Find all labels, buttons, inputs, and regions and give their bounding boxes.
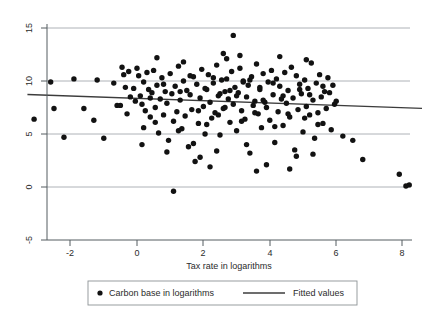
data-point xyxy=(131,86,136,91)
data-point xyxy=(154,55,159,60)
data-point xyxy=(172,84,177,89)
data-point xyxy=(280,93,285,98)
data-point xyxy=(237,53,242,58)
data-point xyxy=(297,87,302,92)
data-point xyxy=(231,33,236,38)
data-point xyxy=(143,108,148,113)
data-point xyxy=(247,150,252,155)
data-point xyxy=(177,89,182,94)
data-point xyxy=(246,83,251,88)
data-point xyxy=(360,157,365,162)
data-point xyxy=(302,77,307,82)
data-point xyxy=(234,93,239,98)
data-point xyxy=(61,134,66,139)
y-tick-label-0: 0 xyxy=(24,184,34,189)
data-point xyxy=(264,162,269,167)
data-point xyxy=(139,142,144,147)
data-point xyxy=(202,131,207,136)
data-point xyxy=(187,92,192,97)
data-point xyxy=(153,120,158,125)
data-point xyxy=(176,63,181,68)
data-point xyxy=(277,54,282,59)
data-point xyxy=(214,62,219,67)
data-point xyxy=(206,72,211,77)
data-point xyxy=(319,94,324,99)
data-point xyxy=(340,133,345,138)
axes xyxy=(47,24,412,240)
data-point xyxy=(320,84,325,89)
data-point xyxy=(310,151,315,156)
data-point xyxy=(241,79,246,84)
legend-label-line: Fitted values xyxy=(293,288,345,298)
data-point xyxy=(224,76,229,81)
data-point xyxy=(265,79,270,84)
data-point xyxy=(237,66,242,71)
data-point xyxy=(136,73,141,78)
data-point xyxy=(309,60,314,65)
data-point xyxy=(290,95,295,100)
data-point xyxy=(91,118,96,123)
data-point xyxy=(229,69,234,74)
data-point xyxy=(315,122,320,127)
data-point xyxy=(232,85,237,90)
data-point xyxy=(174,109,179,114)
x-tick-label-6: 6 xyxy=(333,248,338,258)
data-point xyxy=(101,136,106,141)
data-point xyxy=(121,72,126,77)
data-point xyxy=(181,78,186,83)
y-axis-tick-labels: 15 10 5 0 -5 xyxy=(24,23,34,244)
data-point xyxy=(171,119,176,124)
x-axis-title: Tax rate in logarithms xyxy=(186,261,272,271)
scatter-plot-figure: 15 10 5 0 -5 -2 0 2 4 6 8 Tax rate in lo… xyxy=(0,0,422,317)
data-point xyxy=(141,125,146,130)
data-point xyxy=(270,92,275,97)
data-point xyxy=(189,107,194,112)
chart-legend: Carbon base in logarithms Fitted values xyxy=(88,281,357,305)
data-point xyxy=(177,97,182,102)
data-point xyxy=(260,71,265,76)
data-point xyxy=(294,154,299,159)
x-tick-label-4: 4 xyxy=(267,248,272,258)
data-point xyxy=(222,89,227,94)
data-point xyxy=(284,101,289,106)
data-point xyxy=(305,86,310,91)
data-point xyxy=(302,115,307,120)
x-axis-tick-labels: -2 0 2 4 6 8 xyxy=(66,248,405,258)
x-axis-ticks xyxy=(70,240,402,246)
y-tick-label-minus5: -5 xyxy=(24,236,34,244)
data-point xyxy=(94,77,99,82)
data-point xyxy=(244,142,249,147)
y-axis-ticks xyxy=(41,28,47,240)
data-point xyxy=(194,81,199,86)
data-point xyxy=(254,168,259,173)
data-point xyxy=(181,59,186,64)
data-point xyxy=(148,95,153,100)
data-point xyxy=(123,85,128,90)
data-point xyxy=(254,61,259,66)
data-point xyxy=(239,119,244,124)
data-point xyxy=(176,128,181,133)
data-point xyxy=(216,112,221,117)
data-point xyxy=(164,149,169,154)
data-point xyxy=(267,118,272,123)
data-point xyxy=(159,75,164,80)
chart-canvas: 15 10 5 0 -5 -2 0 2 4 6 8 Tax rate in lo… xyxy=(0,0,422,317)
data-point xyxy=(277,84,282,89)
data-point xyxy=(207,164,212,169)
data-point xyxy=(244,94,249,99)
data-point xyxy=(247,77,252,82)
data-point xyxy=(234,128,239,133)
data-point xyxy=(158,96,163,101)
data-point xyxy=(310,97,315,102)
data-point xyxy=(227,88,232,93)
data-point xyxy=(325,75,330,80)
data-point xyxy=(252,98,257,103)
data-point xyxy=(51,106,56,111)
data-point xyxy=(144,70,149,75)
data-point xyxy=(214,148,219,153)
data-point xyxy=(292,147,297,152)
data-point xyxy=(252,110,257,115)
data-point xyxy=(259,125,264,130)
data-point xyxy=(224,56,229,61)
data-point xyxy=(71,76,76,81)
